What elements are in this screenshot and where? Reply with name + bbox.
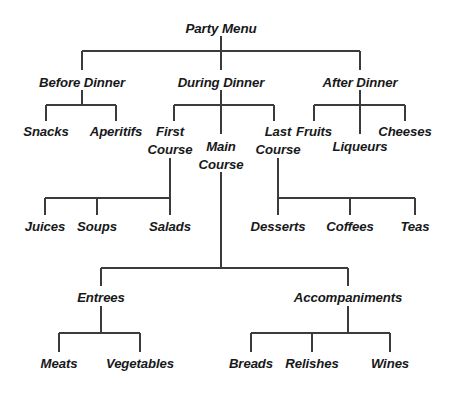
node-last-course-line1: Last bbox=[265, 124, 292, 139]
edges-last-course bbox=[278, 158, 415, 215]
node-main-course: Main Course bbox=[199, 139, 244, 172]
edges-accompaniments bbox=[251, 306, 390, 352]
node-during-dinner: During Dinner bbox=[178, 75, 266, 90]
node-salads: Salads bbox=[149, 219, 191, 234]
node-labels: Party Menu Before Dinner During Dinner A… bbox=[23, 21, 432, 371]
node-wines: Wines bbox=[371, 356, 409, 371]
node-meats: Meats bbox=[41, 356, 78, 371]
edges-entrees bbox=[59, 306, 140, 352]
party-menu-tree-diagram: Party Menu Before Dinner During Dinner A… bbox=[0, 0, 456, 406]
node-coffees: Coffees bbox=[326, 219, 373, 234]
node-entrees: Entrees bbox=[77, 290, 125, 305]
tree-canvas: Party Menu Before Dinner During Dinner A… bbox=[0, 0, 456, 406]
node-juices: Juices bbox=[25, 219, 65, 234]
node-first-course-line1: First bbox=[156, 124, 185, 139]
node-breads: Breads bbox=[229, 356, 273, 371]
edges-during-dinner bbox=[174, 90, 274, 134]
node-desserts: Desserts bbox=[251, 219, 306, 234]
edges-root-to-level1 bbox=[82, 36, 360, 70]
node-liqueurs: Liqueurs bbox=[333, 139, 388, 154]
node-teas: Teas bbox=[400, 219, 429, 234]
node-after-dinner: After Dinner bbox=[321, 75, 398, 90]
edges-first-course bbox=[45, 158, 170, 215]
node-soups: Soups bbox=[77, 219, 117, 234]
node-relishes: Relishes bbox=[285, 356, 338, 371]
node-accompaniments: Accompaniments bbox=[293, 290, 403, 305]
node-fruits: Fruits bbox=[296, 124, 332, 139]
node-cheeses: Cheeses bbox=[378, 124, 432, 139]
node-first-course: First Course bbox=[148, 124, 193, 157]
node-last-course: Last Course bbox=[256, 124, 301, 157]
node-main-course-line1: Main bbox=[206, 139, 236, 154]
edges-main-course bbox=[101, 172, 348, 286]
node-vegetables: Vegetables bbox=[106, 356, 174, 371]
node-first-course-line2: Course bbox=[148, 142, 193, 157]
node-last-course-line2: Course bbox=[256, 142, 301, 157]
node-party-menu: Party Menu bbox=[185, 21, 256, 36]
edges-before-dinner bbox=[46, 90, 116, 121]
node-before-dinner: Before Dinner bbox=[39, 75, 126, 90]
node-main-course-line2: Course bbox=[199, 157, 244, 172]
node-aperitifs: Aperitifs bbox=[89, 124, 143, 139]
node-snacks: Snacks bbox=[23, 124, 69, 139]
